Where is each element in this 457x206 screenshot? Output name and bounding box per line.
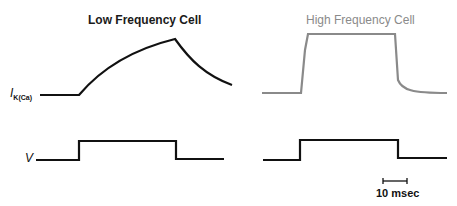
scale-bar: [383, 178, 407, 184]
traces: [0, 0, 457, 206]
high-frequency-current-trace: [262, 34, 447, 93]
scale-bar-label: 10 msec: [376, 187, 419, 199]
low-frequency-current-trace: [40, 39, 232, 95]
low-frequency-voltage-trace: [36, 141, 224, 160]
high-frequency-voltage-trace: [263, 140, 447, 160]
